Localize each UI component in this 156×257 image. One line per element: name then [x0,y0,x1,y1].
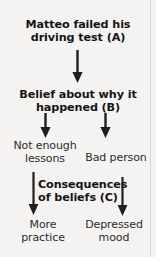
node-outcome-depressed-mood: Depressed mood [78,219,150,245]
node-activating-event: Matteo failed his driving test (A) [8,18,148,44]
node-outcome-more-practice: More practice [8,219,78,245]
abc-model-diagram: Matteo failed his driving test (A) Belie… [0,0,156,257]
arrow-event-to-belief [71,50,84,84]
node-belief: Belief about why it happened (B) [8,88,148,114]
arrow-belief-to-bad-person [99,113,112,139]
arrow-belief-to-not-enough-lessons [39,113,52,139]
node-consequences: Consequences of beliefs (C) [38,178,118,204]
page-edge-rule [150,0,151,257]
node-belief-option-not-enough-lessons: Not enough lessons [6,140,84,166]
node-belief-option-bad-person: Bad person [80,152,152,165]
